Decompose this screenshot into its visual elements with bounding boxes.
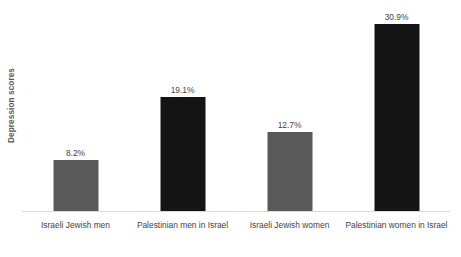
x-axis-category-labels: Israeli Jewish men Palestinian men in Is… [22,214,450,257]
category-label: Israeli Jewish women [236,220,343,231]
category-label: Israeli Jewish men [22,220,129,231]
bar-value-label: 30.9% [385,12,409,22]
x-axis-line [22,211,450,212]
bar-group: 8.2% [22,0,129,211]
bar[interactable]: 12.7% [267,132,312,211]
bar-chart: Depression scores 8.2% 19.1% 12.7% 30.9%… [0,0,461,257]
bar[interactable]: 30.9% [374,24,419,211]
bar[interactable]: 8.2% [53,160,98,211]
y-axis-title-label: Depression scores [7,68,16,143]
bar-value-label: 19.1% [171,85,195,95]
bar-value-label: 8.2% [66,148,85,158]
bar-group: 12.7% [236,0,343,211]
category-label: Palestinian women in Israel [343,220,450,231]
plot-area: 8.2% 19.1% 12.7% 30.9% [22,0,450,211]
bar-value-label: 12.7% [278,120,302,130]
y-axis-title: Depression scores [0,0,22,211]
bar-group: 30.9% [343,0,450,211]
bar-group: 19.1% [129,0,236,211]
category-label: Palestinian men in Israel [129,220,236,231]
bar[interactable]: 19.1% [160,97,205,211]
